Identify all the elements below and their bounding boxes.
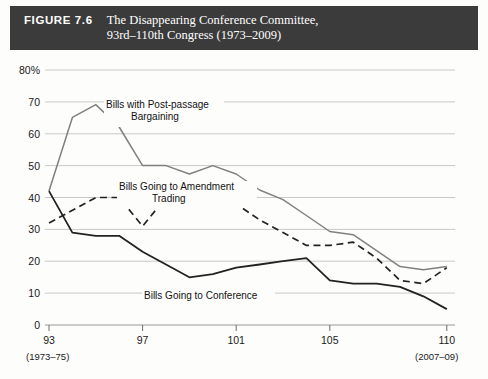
x-sub-label-right: (2007–09) bbox=[415, 351, 458, 362]
figure-container: FIGURE 7.6 The Disappearing Conference C… bbox=[0, 0, 488, 379]
series-dashed-amendment-trading bbox=[49, 198, 447, 284]
figure-header-bar: FIGURE 7.6 The Disappearing Conference C… bbox=[10, 6, 478, 50]
y-tick-label-30: 30 bbox=[28, 223, 40, 235]
y-tick-label-40: 40 bbox=[28, 192, 40, 204]
dashed-series-path bbox=[49, 198, 447, 284]
x-tick-label-105: 105 bbox=[321, 334, 339, 346]
x-tick-label-93: 93 bbox=[43, 334, 55, 346]
annotation-black-label: Bills Going to Conference bbox=[142, 288, 275, 303]
figure-header-content: FIGURE 7.6 The Disappearing Conference C… bbox=[24, 13, 318, 43]
figure-title-line-2: 93rd–110th Congress (1973–2009) bbox=[107, 28, 282, 42]
dashed-series-label-line-1: Bills Going to Amendment bbox=[119, 181, 234, 192]
annotation-dashed-label: Bills Going to Amendment Trading bbox=[117, 181, 257, 208]
x-tick-label-97: 97 bbox=[137, 334, 149, 346]
y-tick-label-70: 70 bbox=[28, 96, 40, 108]
dashed-series-label-line-2: Trading bbox=[152, 193, 186, 204]
figure-title-line-1: The Disappearing Conference Committee, bbox=[107, 13, 319, 27]
y-tick-label-50: 50 bbox=[28, 160, 40, 172]
black-series-label: Bills Going to Conference bbox=[144, 290, 258, 301]
y-tick-label-60: 60 bbox=[28, 128, 40, 140]
y-tick-label-10: 10 bbox=[28, 287, 40, 299]
gray-series-label-line-1: Bills with Post-passage bbox=[106, 99, 209, 110]
y-tick-label-20: 20 bbox=[28, 255, 40, 267]
chart-plot-area: 80% 70 60 50 40 30 20 10 0 Bills bbox=[0, 50, 488, 379]
x-axis: 93 97 101 105 110 (1973–75) (2007–09) bbox=[26, 325, 458, 362]
figure-number: FIGURE 7.6 bbox=[24, 13, 93, 26]
y-tick-label-80: 80% bbox=[19, 64, 40, 76]
y-axis-labels: 80% 70 60 50 40 30 20 10 0 bbox=[19, 64, 40, 331]
gray-series-label-line-2: Bargaining bbox=[131, 111, 179, 122]
figure-title: The Disappearing Conference Committee, 9… bbox=[107, 13, 319, 43]
x-tick-label-101: 101 bbox=[227, 334, 245, 346]
y-tick-label-0: 0 bbox=[34, 319, 40, 331]
x-sub-label-left: (1973–75) bbox=[26, 351, 69, 362]
annotation-gray-label: Bills with Post-passage Bargaining bbox=[104, 99, 224, 127]
line-chart: 80% 70 60 50 40 30 20 10 0 Bills bbox=[0, 50, 488, 379]
x-tick-label-110: 110 bbox=[438, 334, 455, 346]
